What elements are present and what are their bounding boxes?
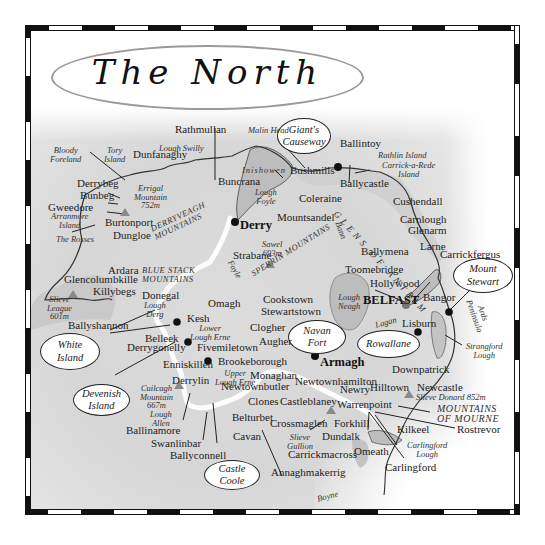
map-title: The North	[51, 52, 364, 92]
feature-cuilcagh-mountain: Cuilcagh Mountain 667m	[140, 384, 173, 410]
town-derrylin[interactable]: Derrylin	[172, 375, 209, 386]
town-rathmullan[interactable]: Rathmullan	[175, 124, 226, 135]
feature-slieve-gullion: Slieve Gullion	[287, 433, 313, 450]
feature-bloody-foreland: Bloody Foreland	[50, 146, 81, 163]
frame-border-bottom	[25, 509, 520, 515]
town-derrygonelly[interactable]: Derrygonelly	[127, 342, 186, 353]
feature-rathlin-island: Rathlin Island	[378, 151, 426, 160]
town-swanlinbar[interactable]: Swanlinbar	[151, 438, 201, 449]
town-brookeborough[interactable]: Brookeborough	[218, 356, 287, 367]
town-ballycastle[interactable]: Ballycastle	[340, 178, 389, 189]
town-ballyshannon[interactable]: Ballyshannon	[68, 320, 129, 331]
town-glencolumbkille[interactable]: Glencolumbkille	[64, 274, 138, 285]
feature-errigal-mountain: Errigal Mountain 752m	[134, 184, 167, 210]
town-forkhill[interactable]: Forkhill	[334, 418, 369, 429]
feature-carlingford-lough: Carlingford Lough	[407, 441, 447, 458]
feature-lough-foyle: Lough Foyle	[255, 188, 277, 205]
feature-lough-derg: Lough Derg	[144, 301, 166, 318]
town-dundalk[interactable]: Dundalk	[322, 431, 360, 442]
town-lisburn[interactable]: Lisburn	[402, 318, 436, 329]
town-newry[interactable]: Newry	[340, 384, 370, 395]
feature-lower-lough-erne: Lower Lough Erne	[190, 324, 230, 341]
town-clogher[interactable]: Clogher	[250, 322, 285, 333]
town-cookstown[interactable]: Cookstown	[263, 294, 313, 305]
town-warrenpoint[interactable]: Warrenpoint	[337, 399, 392, 410]
callout-rowallane[interactable]: Rowallane	[357, 330, 420, 358]
feature-upper-lough-erne: Upper Lough Erne	[215, 369, 255, 386]
town-derry[interactable]: Derry	[240, 219, 272, 232]
town-ballintoy[interactable]: Ballintoy	[340, 138, 381, 149]
town-omeath[interactable]: Omeath	[354, 446, 389, 457]
feature-slieve-league: Slieve League 601m	[47, 295, 72, 321]
feature-the-rosses: The Rosses	[56, 235, 94, 244]
town-dungloe[interactable]: Dungloe	[113, 230, 151, 241]
town-crossmaglen[interactable]: Crossmaglen	[270, 418, 327, 429]
town-augher[interactable]: Augher	[259, 336, 292, 347]
town-burtonport[interactable]: Burtonport	[105, 217, 153, 228]
town-omagh[interactable]: Omagh	[208, 298, 240, 309]
town-castleblaney[interactable]: Castleblaney	[280, 396, 337, 407]
town-kilkeel[interactable]: Kilkeel	[397, 424, 429, 435]
town-fivemiletown[interactable]: Fivemiletown	[197, 342, 258, 353]
frame-border-left	[25, 25, 31, 515]
callout-giants-causeway[interactable]: Giant's Causeway	[277, 118, 331, 154]
feature-tory-island: Tory Island	[104, 146, 125, 163]
town-belturbet[interactable]: Belturbet	[232, 412, 273, 423]
town-buncrana[interactable]: Buncrana	[218, 176, 260, 187]
town-carlingford[interactable]: Carlingford	[385, 462, 436, 473]
callout-mount-stewart[interactable]: Mount Stewart	[453, 258, 513, 293]
town-ballyconnell[interactable]: Ballyconnell	[170, 450, 226, 461]
town-cavan[interactable]: Cavan	[233, 431, 261, 442]
callout-devenish-island[interactable]: Devenish Island	[73, 384, 130, 416]
feature-lough-neagh: Lough Neagh	[338, 293, 360, 310]
town-stewartstown[interactable]: Stewartstown	[261, 306, 321, 317]
feature-arranmore-island: Arranmore Island	[51, 212, 88, 229]
frame-border-top	[25, 25, 520, 31]
town-downpatrick[interactable]: Downpatrick	[392, 364, 449, 375]
callout-white-island[interactable]: White Island	[40, 333, 100, 370]
town-carrickmacross[interactable]: Carrickmacross	[288, 449, 357, 460]
feature-slieve-donard: Slieve Donard 852m	[416, 393, 486, 402]
town-bunbeg[interactable]: Bunbeg	[80, 190, 114, 201]
town-glenarm[interactable]: Glenarm	[408, 225, 446, 236]
region-blue-stack-mountains: BLUE STACK MOUNTAINS	[142, 266, 195, 283]
town-rostrevor[interactable]: Rostrevor	[457, 424, 500, 435]
town-hilltown[interactable]: Hilltown	[370, 382, 409, 393]
town-carrickfergus[interactable]: Carrickfergus	[440, 249, 500, 260]
feature-strangford-lough: Strangford Lough	[466, 342, 503, 359]
town-bushmills[interactable]: Bushmills	[290, 165, 335, 176]
town-annaghmakerrig[interactable]: Annaghmakerrig	[271, 467, 346, 478]
region-mountains-of-mourne: MOUNTAINS OF MOURNE	[437, 404, 499, 424]
town-cushendall[interactable]: Cushendall	[393, 196, 443, 207]
feature-malin-head: Malin Head	[248, 126, 289, 135]
callout-navan-fort[interactable]: Navan Fort	[288, 320, 346, 354]
feature-lough-swilly: Lough Swilly	[159, 144, 204, 153]
town-armagh[interactable]: Armagh	[320, 356, 364, 369]
town-enniskillen[interactable]: Enniskillen	[163, 359, 213, 370]
town-killybegs[interactable]: Killybegs	[93, 286, 136, 297]
town-derrybeg[interactable]: Derrybeg	[77, 178, 119, 189]
feature-lough-allen: Lough Allen	[150, 410, 172, 427]
town-coleraine[interactable]: Coleraine	[299, 193, 342, 204]
town-clones[interactable]: Clones	[248, 396, 279, 407]
feature-inishowen: Inishowen	[242, 166, 286, 175]
callout-castle-coole[interactable]: Castle Coole	[204, 460, 260, 490]
town-bangor[interactable]: Bangor	[423, 292, 455, 303]
feature-carrick-a-rede: Carrick-a-Rede Island	[382, 161, 435, 178]
frame-border-right	[514, 25, 520, 515]
